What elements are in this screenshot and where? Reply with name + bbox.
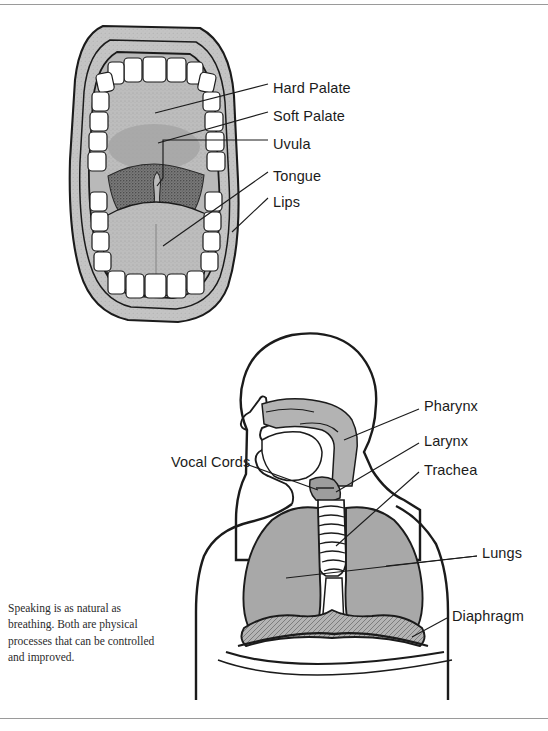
label-lips: Lips [273, 194, 300, 210]
label-hard-palate: Hard Palate [273, 80, 351, 96]
label-vocal-cords: Vocal Cords [171, 454, 250, 470]
label-tongue: Tongue [273, 168, 321, 184]
label-uvula: Uvula [273, 136, 311, 152]
figure-caption: Speaking is as natural as breathing. Bot… [8, 600, 158, 665]
label-soft-palate: Soft Palate [273, 108, 345, 124]
label-larynx: Larynx [424, 433, 468, 449]
label-lungs: Lungs [482, 545, 522, 561]
trachea-tube [318, 500, 346, 626]
label-pharynx: Pharynx [424, 398, 478, 414]
label-trachea: Trachea [424, 462, 477, 478]
figure-stage: Hard Palate Soft Palate Uvula Tongue Lip… [0, 0, 548, 731]
label-diaphragm: Diaphragm [452, 608, 524, 624]
